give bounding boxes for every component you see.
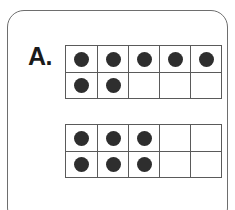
ten-frame-cell-filled[interactable] — [190, 46, 221, 72]
ten-frame-cell-filled[interactable] — [66, 152, 97, 177]
worksheet-card: A. — [7, 10, 228, 210]
ten-frame-cell-filled[interactable] — [159, 46, 190, 72]
ten-frame-cell-empty[interactable] — [190, 125, 221, 151]
counter-dot-icon — [137, 52, 152, 67]
ten-frame-cell-filled[interactable] — [128, 46, 159, 72]
ten-frame-cell-filled[interactable] — [97, 152, 128, 177]
counter-dot-icon — [106, 78, 121, 93]
ten-frame-cell-empty[interactable] — [159, 73, 190, 98]
ten-frame-cell-empty[interactable] — [159, 125, 190, 151]
ten-frame-cell-empty[interactable] — [190, 152, 221, 177]
ten-frame-cell-filled[interactable] — [97, 46, 128, 72]
ten-frame-cell-empty[interactable] — [159, 152, 190, 177]
counter-dot-icon — [106, 52, 121, 67]
counter-dot-icon — [199, 52, 214, 67]
counter-dot-icon — [106, 131, 121, 146]
ten-frame-row — [66, 72, 221, 98]
ten-frame-cell-filled[interactable] — [97, 73, 128, 98]
ten-frame-1[interactable] — [65, 45, 222, 99]
ten-frame-cell-filled[interactable] — [97, 125, 128, 151]
counter-dot-icon — [74, 78, 89, 93]
counter-dot-icon — [74, 157, 89, 172]
ten-frame-row — [66, 151, 221, 177]
counter-dot-icon — [137, 157, 152, 172]
counter-dot-icon — [137, 131, 152, 146]
counter-dot-icon — [74, 52, 89, 67]
ten-frame-row — [66, 125, 221, 151]
ten-frame-cell-filled[interactable] — [128, 152, 159, 177]
ten-frame-cell-filled[interactable] — [66, 73, 97, 98]
counter-dot-icon — [106, 157, 121, 172]
ten-frame-row — [66, 46, 221, 72]
counter-dot-icon — [74, 131, 89, 146]
ten-frame-cell-filled[interactable] — [66, 46, 97, 72]
ten-frame-cell-empty[interactable] — [128, 73, 159, 98]
ten-frame-cell-filled[interactable] — [128, 125, 159, 151]
ten-frame-2[interactable] — [65, 124, 222, 178]
counter-dot-icon — [168, 52, 183, 67]
ten-frame-cell-empty[interactable] — [190, 73, 221, 98]
ten-frame-cell-filled[interactable] — [66, 125, 97, 151]
page-title: A. — [28, 44, 62, 69]
